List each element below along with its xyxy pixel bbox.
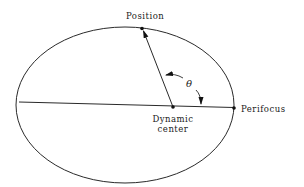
position-label: Position [126, 11, 164, 21]
dynamic-center-label-line1: Dynamic [152, 114, 193, 124]
radius-vector-arrow [144, 31, 174, 107]
position-point [140, 27, 144, 31]
theta-arc-arrow-lower [196, 90, 201, 104]
theta-arc-arrow-upper [166, 74, 183, 78]
theta-label: θ [186, 78, 192, 89]
dynamic-center-point [171, 105, 175, 109]
perifocus-point [232, 106, 236, 110]
orbit-diagram: Position Perifocus Dynamic center θ [0, 0, 304, 187]
dynamic-center-label-line2: center [158, 124, 189, 134]
apsidal-line [19, 102, 234, 108]
perifocus-label: Perifocus [241, 104, 286, 114]
